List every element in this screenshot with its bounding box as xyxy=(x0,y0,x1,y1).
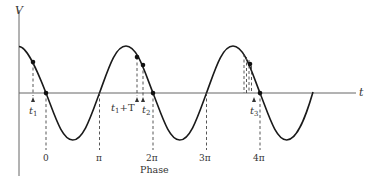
arrow-marks xyxy=(31,97,256,102)
t1-plus-T-label: t1+T xyxy=(111,102,135,115)
phase-tick-2pi: 2π xyxy=(146,153,158,163)
t-axis-label: t xyxy=(359,86,364,99)
v-axis-label: V xyxy=(15,4,24,17)
marker-lines xyxy=(33,54,260,150)
t2-label: t2 xyxy=(142,104,151,117)
phase-tick-3pi: 3π xyxy=(199,153,211,163)
phase-tick-0: 0 xyxy=(43,153,49,163)
sine-wave-diagram: V t t1 t1+T t2 t3 0 π 2π 3π 4π Phase xyxy=(0,0,376,182)
t3-label: t3 xyxy=(250,105,259,118)
t1-label: t1 xyxy=(29,105,38,118)
phase-tick-pi: π xyxy=(96,153,102,163)
phase-tick-4pi: 4π xyxy=(253,153,265,163)
phase-axis-label: Phase xyxy=(140,164,169,175)
